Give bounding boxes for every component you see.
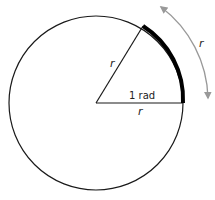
diagram-canvas: r 1 rad r r — [0, 0, 215, 200]
label-angle: 1 rad — [129, 90, 155, 101]
radian-diagram: r 1 rad r r — [0, 0, 215, 200]
label-radius-upper: r — [110, 57, 116, 70]
label-arc-length: r — [199, 37, 205, 50]
label-radius-lower: r — [138, 105, 144, 118]
